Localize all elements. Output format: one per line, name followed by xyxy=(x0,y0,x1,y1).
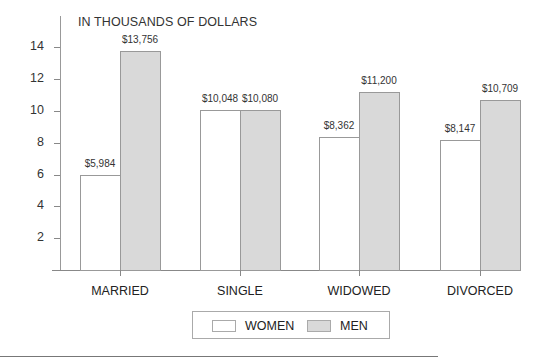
y-tick-label: 14 xyxy=(18,39,44,53)
y-tick xyxy=(54,111,60,112)
category-label: SINGLE xyxy=(185,284,295,298)
y-tick-label: 2 xyxy=(18,230,44,244)
x-tick xyxy=(359,270,360,276)
y-tick-label: 10 xyxy=(18,103,44,117)
value-label: $10,709 xyxy=(470,83,530,94)
value-label: $11,200 xyxy=(349,75,409,86)
value-label: $10,080 xyxy=(230,93,290,104)
y-tick xyxy=(54,238,60,239)
y-axis xyxy=(60,16,61,271)
bar-women-married xyxy=(80,175,121,271)
y-tick xyxy=(54,79,60,80)
bar-women-widowed xyxy=(319,137,360,271)
bar-men-married xyxy=(120,51,161,271)
bar-women-divorced xyxy=(440,140,481,271)
category-label: DIVORCED xyxy=(425,284,535,298)
bar-men-single xyxy=(240,110,281,271)
y-tick-label: 12 xyxy=(18,71,44,85)
bar-men-divorced xyxy=(480,100,521,271)
y-tick xyxy=(54,143,60,144)
y-tick xyxy=(54,47,60,48)
legend-swatch-women xyxy=(212,320,236,332)
x-tick xyxy=(120,270,121,276)
legend-swatch-men xyxy=(307,320,331,332)
divider-rule xyxy=(0,356,438,357)
y-tick-label: 6 xyxy=(18,167,44,181)
category-label: WIDOWED xyxy=(304,284,414,298)
y-tick xyxy=(54,175,60,176)
bar-men-widowed xyxy=(359,92,400,271)
legend-label-men: MEN xyxy=(340,319,368,333)
bar-women-single xyxy=(200,110,241,271)
category-label: MARRIED xyxy=(65,284,175,298)
legend-label-women: WOMEN xyxy=(245,319,294,333)
legend: WOMEN MEN xyxy=(192,311,390,339)
x-tick xyxy=(480,270,481,276)
chart-title: IN THOUSANDS OF DOLLARS xyxy=(78,15,257,29)
y-tick-label: 4 xyxy=(18,198,44,212)
y-tick xyxy=(54,206,60,207)
y-tick-label: 8 xyxy=(18,135,44,149)
value-label: $13,756 xyxy=(110,34,170,45)
x-tick xyxy=(240,270,241,276)
